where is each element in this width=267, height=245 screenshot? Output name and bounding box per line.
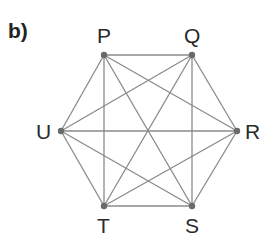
edge-RT [104, 131, 237, 206]
complete-graph: PQRSTU [0, 0, 267, 245]
vertex-label-R: R [245, 120, 260, 143]
graph-edges [61, 55, 237, 206]
vertex-label-U: U [36, 120, 51, 143]
vertex-Q [189, 52, 195, 58]
vertex-label-T: T [97, 214, 110, 237]
edge-RS [192, 131, 237, 206]
diagram-canvas: b) PQRSTU [0, 0, 267, 245]
edge-TU [61, 131, 104, 206]
edge-QU [61, 55, 192, 131]
vertex-T [101, 203, 107, 209]
vertex-label-Q: Q [184, 24, 200, 47]
edge-PU [61, 55, 104, 131]
vertex-label-P: P [97, 24, 111, 47]
edge-QR [192, 55, 237, 131]
vertex-label-S: S [185, 214, 199, 237]
vertex-R [234, 128, 240, 134]
vertex-U [58, 128, 64, 134]
vertex-S [189, 203, 195, 209]
edge-SU [61, 131, 192, 206]
vertex-P [101, 52, 107, 58]
